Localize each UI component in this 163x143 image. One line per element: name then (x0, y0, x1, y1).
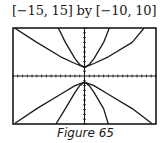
curve-lower-shallow-right (85, 82, 152, 123)
curve-upper-shallow-left (13, 27, 85, 67)
graph-plot (0, 0, 163, 143)
figure-caption: Figure 65 (0, 126, 163, 140)
curve-lower-steep-right (85, 82, 109, 124)
curve-upper-shallow-right (85, 28, 145, 67)
curve-lower-shallow-left (15, 82, 84, 123)
